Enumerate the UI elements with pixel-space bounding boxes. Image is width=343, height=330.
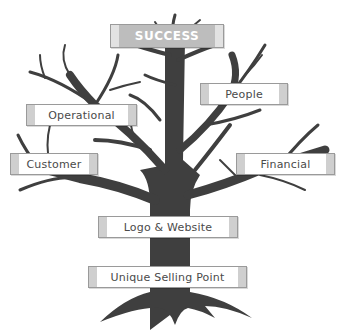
- operational-box: Operational: [26, 104, 137, 126]
- box-cap-left: [237, 154, 245, 174]
- financial-label: Financial: [261, 158, 311, 171]
- box-cap-left: [111, 25, 119, 47]
- unique-selling-point-label: Unique Selling Point: [111, 271, 225, 284]
- box-cap-right: [89, 154, 97, 174]
- box-cap-right: [279, 84, 287, 104]
- customer-box: Customer: [10, 153, 98, 175]
- box-cap-right: [326, 154, 334, 174]
- box-cap-left: [27, 105, 35, 125]
- operational-label: Operational: [48, 109, 115, 122]
- box-cap-left: [201, 84, 209, 104]
- box-cap-right: [238, 267, 246, 287]
- logo-website-box: Logo & Website: [98, 216, 238, 238]
- box-cap-right: [215, 25, 223, 47]
- unique-selling-point-box: Unique Selling Point: [88, 266, 247, 288]
- logo-website-label: Logo & Website: [124, 221, 213, 234]
- customer-label: Customer: [26, 158, 81, 171]
- success-box: SUCCESS: [110, 24, 224, 48]
- people-label: People: [225, 88, 263, 101]
- success-label: SUCCESS: [135, 29, 199, 43]
- box-cap-left: [11, 154, 19, 174]
- box-cap-right: [128, 105, 136, 125]
- box-cap-left: [99, 217, 107, 237]
- financial-box: Financial: [236, 153, 335, 175]
- box-cap-right: [229, 217, 237, 237]
- people-box: People: [200, 83, 288, 105]
- roots-shape: [100, 292, 252, 325]
- box-cap-left: [89, 267, 97, 287]
